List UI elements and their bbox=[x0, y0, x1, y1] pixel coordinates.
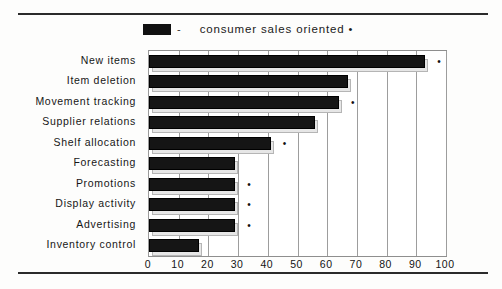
filled-square-icon bbox=[143, 24, 171, 35]
x-tick-label-30: 30 bbox=[231, 258, 244, 270]
bar-annotation-marker: • bbox=[247, 221, 251, 231]
bar-annotation-marker: • bbox=[247, 180, 251, 190]
bar bbox=[149, 116, 315, 129]
bar-annotation-marker: • bbox=[351, 98, 355, 108]
category-label-promotions: Promotions bbox=[2, 178, 136, 189]
bar bbox=[149, 55, 425, 68]
x-tick-label-0: 0 bbox=[145, 258, 151, 270]
x-tick-label-50: 50 bbox=[290, 258, 303, 270]
x-tick-label-90: 90 bbox=[409, 258, 422, 270]
category-label-supplier-relations: Supplier relations bbox=[2, 116, 136, 127]
chart-legend: - consumer sales oriented • bbox=[143, 21, 352, 37]
category-label-movement-tracking: Movement tracking bbox=[2, 96, 136, 107]
gridline bbox=[416, 51, 417, 256]
bar bbox=[149, 75, 348, 88]
gridline bbox=[446, 51, 447, 256]
legend-label: consumer sales oriented bbox=[200, 23, 345, 35]
x-tick-label-80: 80 bbox=[379, 258, 392, 270]
category-label-item-deletion: Item deletion bbox=[2, 75, 136, 86]
x-tick-label-60: 60 bbox=[320, 258, 333, 270]
bar-annotation-marker: • bbox=[247, 200, 251, 210]
x-tick-label-20: 20 bbox=[201, 258, 214, 270]
top-rule bbox=[18, 13, 488, 15]
bar bbox=[149, 137, 271, 150]
category-label-new-items: New items bbox=[2, 55, 136, 66]
x-tick-label-40: 40 bbox=[260, 258, 273, 270]
legend-marker-icon: • bbox=[349, 23, 353, 35]
category-label-shelf-allocation: Shelf allocation bbox=[2, 137, 136, 148]
category-label-inventory-control: Inventory control bbox=[2, 239, 136, 250]
category-label-forecasting: Forecasting bbox=[2, 157, 136, 168]
gridline bbox=[357, 51, 358, 256]
bar bbox=[149, 178, 235, 191]
bar bbox=[149, 157, 235, 170]
x-axis-tick-labels: 0102030405060708090100 bbox=[0, 258, 502, 274]
bar bbox=[149, 96, 339, 109]
x-tick-label-10: 10 bbox=[171, 258, 184, 270]
bar bbox=[149, 219, 235, 232]
plot-area: •••••• bbox=[148, 50, 447, 257]
bar bbox=[149, 239, 199, 252]
category-axis-labels: New itemsItem deletionMovement trackingS… bbox=[2, 50, 142, 255]
x-tick-label-100: 100 bbox=[435, 258, 454, 270]
category-label-display-activity: Display activity bbox=[2, 198, 136, 209]
gridline bbox=[387, 51, 388, 256]
bar-annotation-marker: • bbox=[283, 139, 287, 149]
bar-annotation-marker: • bbox=[437, 57, 441, 67]
legend-separator: - bbox=[177, 23, 181, 35]
category-label-advertising: Advertising bbox=[2, 219, 136, 230]
bar bbox=[149, 198, 235, 211]
chart-figure: - consumer sales oriented • New itemsIte… bbox=[0, 0, 502, 289]
x-tick-label-70: 70 bbox=[350, 258, 363, 270]
